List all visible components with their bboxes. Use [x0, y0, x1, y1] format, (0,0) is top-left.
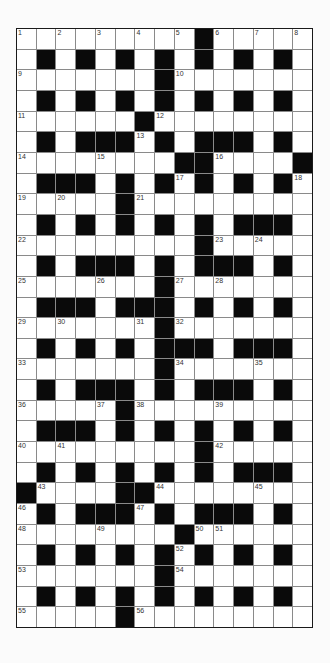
white-square[interactable]: [293, 525, 312, 545]
white-square[interactable]: [56, 339, 75, 359]
white-square[interactable]: [293, 215, 312, 235]
white-square[interactable]: [56, 91, 75, 111]
white-square[interactable]: [274, 194, 293, 214]
white-square[interactable]: [254, 70, 273, 90]
white-square[interactable]: [274, 525, 293, 545]
white-square[interactable]: [195, 112, 214, 132]
white-square[interactable]: [96, 70, 115, 90]
white-square[interactable]: [96, 298, 115, 318]
white-square[interactable]: [293, 483, 312, 503]
white-square[interactable]: [116, 236, 135, 256]
white-square[interactable]: [135, 91, 154, 111]
white-square[interactable]: [293, 442, 312, 462]
white-square[interactable]: [135, 174, 154, 194]
white-square[interactable]: [37, 194, 56, 214]
white-square[interactable]: [116, 29, 135, 49]
white-square[interactable]: [254, 525, 273, 545]
white-square[interactable]: [293, 504, 312, 524]
white-square[interactable]: [56, 607, 75, 627]
white-square[interactable]: [135, 236, 154, 256]
white-square[interactable]: [214, 421, 233, 441]
white-square[interactable]: [254, 50, 273, 70]
white-square[interactable]: [234, 483, 253, 503]
white-square[interactable]: [175, 421, 194, 441]
white-square[interactable]: 30: [56, 318, 75, 338]
white-square[interactable]: [116, 566, 135, 586]
white-square[interactable]: [175, 463, 194, 483]
white-square[interactable]: [17, 50, 36, 70]
white-square[interactable]: 46: [17, 504, 36, 524]
white-square[interactable]: 10: [175, 70, 194, 90]
white-square[interactable]: [37, 236, 56, 256]
white-square[interactable]: [293, 607, 312, 627]
white-square[interactable]: 18: [293, 174, 312, 194]
white-square[interactable]: [56, 504, 75, 524]
white-square[interactable]: [195, 194, 214, 214]
white-square[interactable]: [214, 215, 233, 235]
white-square[interactable]: [274, 153, 293, 173]
white-square[interactable]: [76, 194, 95, 214]
white-square[interactable]: 12: [155, 112, 174, 132]
white-square[interactable]: [76, 70, 95, 90]
white-square[interactable]: [214, 339, 233, 359]
white-square[interactable]: 39: [214, 401, 233, 421]
white-square[interactable]: [76, 112, 95, 132]
white-square[interactable]: [96, 112, 115, 132]
white-square[interactable]: 38: [135, 401, 154, 421]
white-square[interactable]: [135, 463, 154, 483]
white-square[interactable]: 48: [17, 525, 36, 545]
white-square[interactable]: 32: [175, 318, 194, 338]
white-square[interactable]: [56, 50, 75, 70]
white-square[interactable]: [175, 256, 194, 276]
white-square[interactable]: [214, 483, 233, 503]
white-square[interactable]: [234, 153, 253, 173]
white-square[interactable]: 45: [254, 483, 273, 503]
white-square[interactable]: [254, 318, 273, 338]
white-square[interactable]: [175, 442, 194, 462]
white-square[interactable]: [293, 587, 312, 607]
white-square[interactable]: [56, 112, 75, 132]
white-square[interactable]: 52: [175, 545, 194, 565]
white-square[interactable]: 36: [17, 401, 36, 421]
white-square[interactable]: [17, 587, 36, 607]
white-square[interactable]: 31: [135, 318, 154, 338]
white-square[interactable]: [135, 525, 154, 545]
white-square[interactable]: [214, 607, 233, 627]
white-square[interactable]: [37, 566, 56, 586]
white-square[interactable]: 40: [17, 442, 36, 462]
white-square[interactable]: 25: [17, 277, 36, 297]
white-square[interactable]: 54: [175, 566, 194, 586]
white-square[interactable]: [76, 153, 95, 173]
white-square[interactable]: [155, 236, 174, 256]
white-square[interactable]: [214, 70, 233, 90]
white-square[interactable]: [56, 236, 75, 256]
white-square[interactable]: [17, 421, 36, 441]
white-square[interactable]: [76, 525, 95, 545]
white-square[interactable]: 51: [214, 525, 233, 545]
white-square[interactable]: [96, 194, 115, 214]
white-square[interactable]: [234, 401, 253, 421]
white-square[interactable]: [56, 566, 75, 586]
white-square[interactable]: [195, 607, 214, 627]
white-square[interactable]: [116, 442, 135, 462]
white-square[interactable]: [254, 132, 273, 152]
white-square[interactable]: [274, 566, 293, 586]
white-square[interactable]: [135, 587, 154, 607]
white-square[interactable]: [234, 442, 253, 462]
white-square[interactable]: [254, 298, 273, 318]
white-square[interactable]: [96, 339, 115, 359]
white-square[interactable]: [17, 174, 36, 194]
white-square[interactable]: 20: [56, 194, 75, 214]
white-square[interactable]: [56, 587, 75, 607]
white-square[interactable]: [76, 359, 95, 379]
white-square[interactable]: [76, 607, 95, 627]
white-square[interactable]: [254, 277, 273, 297]
white-square[interactable]: [293, 359, 312, 379]
white-square[interactable]: 16: [214, 153, 233, 173]
white-square[interactable]: 8: [293, 29, 312, 49]
white-square[interactable]: [56, 277, 75, 297]
white-square[interactable]: [135, 442, 154, 462]
white-square[interactable]: [274, 442, 293, 462]
white-square[interactable]: [293, 91, 312, 111]
white-square[interactable]: [234, 70, 253, 90]
